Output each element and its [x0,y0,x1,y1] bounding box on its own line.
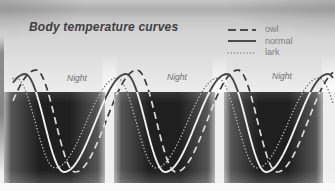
legend-label-lark: lark [265,48,280,57]
legend-label-normal: normal [265,37,293,46]
legend-label-owl: owl [265,25,279,34]
legend-item-lark: lark [227,47,293,59]
normal-solid-line-icon [227,38,257,44]
figure-title: Body temperature curves [29,20,178,34]
lark-dotted-line-icon [227,50,257,56]
night-label-2: Night [167,72,187,82]
night-label-1: Night [67,73,87,83]
night-label-3: Night [272,71,292,81]
legend-item-normal: normal [227,36,293,48]
figure-body-temperature-curves: Body temperature curves Night Night Nigh… [0,0,335,191]
owl-dashed-line-icon [227,27,257,33]
legend: owl normal lark [227,24,293,59]
legend-item-owl: owl [227,24,293,36]
